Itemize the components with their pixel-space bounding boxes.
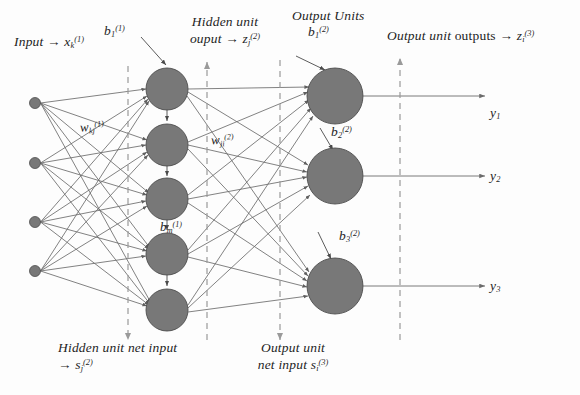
output-nodes	[307, 68, 363, 314]
label-hidden-output-lead: ouput	[190, 31, 222, 46]
output-arrows	[363, 96, 485, 286]
bias-sup: (1)	[115, 24, 125, 33]
bias-symbol: b	[331, 124, 338, 139]
output-node	[307, 68, 363, 124]
output-outputs-lead: Output unit	[387, 28, 451, 43]
label-output-bias-1: b1(2)	[308, 24, 329, 42]
label-y2: y2	[490, 168, 500, 186]
network-graphics	[0, 0, 580, 395]
label-output-units-heading: Output Units	[292, 8, 365, 25]
hidden-node	[146, 289, 188, 331]
output-net-input-line2: net input si(3)	[228, 357, 358, 375]
hidden-net-input-line1: Hidden unit net input	[58, 340, 177, 357]
label-hidden-output-sup: (2)	[250, 32, 260, 41]
y1-sub: 1	[496, 112, 500, 121]
bias-symbol: b	[339, 228, 346, 243]
hidden-node	[146, 124, 188, 166]
hidden-net-input-sup: (2)	[83, 358, 93, 367]
label-output-bias-2: b2(2)	[331, 124, 352, 142]
output-node	[307, 258, 363, 314]
label-y3: y3	[490, 278, 500, 296]
edges-hidden-to-output	[187, 87, 313, 312]
label-input-lead: Input	[14, 34, 44, 49]
input-node	[30, 217, 41, 228]
y3-sub: 3	[496, 285, 500, 294]
arrow-glyph: →	[47, 34, 61, 49]
label-output-unit-outputs: Output unit outputs → zi(3)	[387, 28, 534, 46]
neural-network-diagram: Input → xk(1) b1(1) Hidden unit ouput → …	[0, 0, 580, 395]
label-hidden-bias-last: bm(1)	[160, 219, 182, 236]
weight-sup: (2)	[224, 132, 234, 141]
output-outputs-word: outputs	[455, 28, 496, 43]
output-node	[307, 148, 363, 204]
output-outputs-sup: (3)	[524, 29, 534, 38]
output-units-text: Output Units	[292, 8, 365, 23]
label-weights-hidden-output: wji(2)	[211, 131, 235, 149]
output-net-input-lead: net input	[258, 357, 307, 372]
hidden-net-input-line2: → sj(2)	[58, 357, 177, 375]
label-output-net-input: Output unit net input si(3)	[228, 340, 358, 375]
input-node	[30, 98, 41, 109]
weight-symbol: w	[211, 132, 221, 147]
label-hidden-output-line1: Hidden unit	[160, 14, 290, 31]
bias-sup: (2)	[319, 25, 329, 34]
input-nodes	[30, 98, 41, 277]
input-node	[30, 266, 41, 277]
bias-sup: (2)	[342, 125, 352, 134]
label-hidden-net-input: Hidden unit net input → sj(2)	[58, 340, 177, 375]
bias-symbol: b	[308, 24, 315, 39]
label-output-bias-3: b3(2)	[339, 228, 360, 246]
label-weights-input-hidden: wkj(1)	[79, 118, 104, 137]
label-input: Input → xk(1)	[14, 34, 84, 52]
weight-sup: (1)	[94, 119, 104, 129]
bias-symbol: b	[160, 219, 167, 234]
label-y1: y1	[490, 105, 500, 123]
output-net-input-line1: Output unit	[228, 340, 358, 357]
hidden-node	[146, 68, 188, 110]
bias-sup: (2)	[350, 229, 360, 238]
label-hidden-bias-first: b1(1)	[104, 23, 125, 41]
output-net-input-sup: (3)	[319, 358, 329, 367]
input-node	[30, 158, 41, 169]
arrow-glyph: →	[58, 357, 72, 372]
y2-sub: 2	[496, 175, 500, 184]
bias-symbol: b	[104, 23, 111, 38]
hidden-nodes	[146, 68, 188, 331]
bias-sup: (1)	[173, 220, 182, 229]
arrow-glyph: →	[499, 28, 513, 43]
label-hidden-unit-output: Hidden unit ouput → zj(2)	[160, 14, 290, 49]
hidden-node	[146, 233, 188, 275]
label-input-sup: (1)	[74, 35, 84, 44]
label-hidden-output-line2: ouput → zj(2)	[160, 31, 290, 49]
arrow-glyph: →	[225, 31, 239, 46]
hidden-node	[146, 178, 188, 220]
